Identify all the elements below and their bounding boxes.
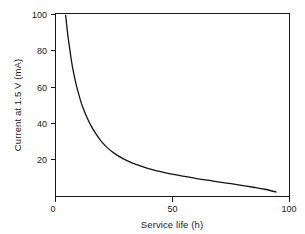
x-tick-labels: 0 50 100 bbox=[50, 204, 296, 214]
x-tick-label-0: 0 bbox=[50, 204, 55, 214]
line-chart: 100 80 60 40 20 0 50 100 Service life (h… bbox=[0, 0, 305, 234]
x-axis-title: Service life (h) bbox=[141, 219, 203, 230]
y-axis-title: Current at 1.5 V (mA) bbox=[12, 59, 23, 151]
y-tick-label-80: 80 bbox=[37, 46, 47, 56]
y-tick-labels: 100 80 60 40 20 bbox=[32, 10, 47, 165]
y-tick-label-100: 100 bbox=[32, 10, 47, 20]
x-tick-label-50: 50 bbox=[167, 204, 177, 214]
x-tick-label-100: 100 bbox=[281, 204, 296, 214]
y-axis-ticks bbox=[51, 15, 56, 160]
plot-area-background bbox=[55, 13, 290, 196]
y-tick-label-20: 20 bbox=[37, 155, 47, 165]
y-tick-label-40: 40 bbox=[37, 119, 47, 129]
figure-container: 100 80 60 40 20 0 50 100 Service life (h… bbox=[0, 0, 305, 234]
x-axis-ticks bbox=[56, 197, 290, 202]
y-tick-label-60: 60 bbox=[37, 83, 47, 93]
